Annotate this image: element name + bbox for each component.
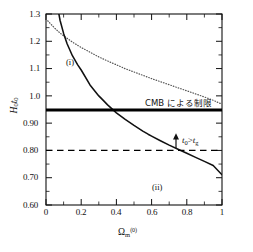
ytick-label-0p70: 0.70 bbox=[12, 172, 38, 182]
y-axis-title-h: H bbox=[9, 107, 19, 114]
figure-container: 1.3 1.2 1.1 1.0 0.90 0.80 0.70 0.60 0 0.… bbox=[0, 0, 253, 252]
series-line-i bbox=[53, 0, 222, 175]
xtick-label-0p4: 0.4 bbox=[103, 207, 129, 217]
x-axis-title: Ωm(0) bbox=[118, 227, 137, 238]
xtick-label-0p2: 0.2 bbox=[68, 207, 94, 217]
y-axis-title-t-sub: 0 bbox=[12, 97, 19, 100]
y-axis-title-t: t bbox=[9, 101, 19, 104]
x-axis-title-omega: Ω bbox=[118, 227, 125, 237]
age-constraint-label: t0>tg bbox=[182, 135, 199, 146]
y-axis-title: H0t0 bbox=[9, 79, 20, 131]
xtick-label-1: 1 bbox=[209, 207, 235, 217]
ytick-label-1p2: 1.2 bbox=[14, 36, 40, 46]
ytick-label-1p1: 1.1 bbox=[14, 63, 40, 73]
up-arrow-icon bbox=[173, 133, 179, 148]
curve-i-label: (i) bbox=[66, 57, 74, 67]
curve-ii-label: (ii) bbox=[152, 182, 162, 192]
age-label-tg-sub: g bbox=[195, 139, 198, 146]
cmb-constraint-label: CMB による制限 bbox=[145, 96, 212, 108]
xtick-label-0p8: 0.8 bbox=[174, 207, 200, 217]
ytick-label-0p80: 0.80 bbox=[12, 145, 38, 155]
x-axis-title-sup: (0) bbox=[130, 227, 137, 233]
ytick-label-1p3: 1.3 bbox=[14, 9, 40, 19]
y-axis-title-h-sub: 0 bbox=[12, 103, 19, 106]
xtick-label-0p6: 0.6 bbox=[139, 207, 165, 217]
xtick-label-0: 0 bbox=[33, 207, 59, 217]
